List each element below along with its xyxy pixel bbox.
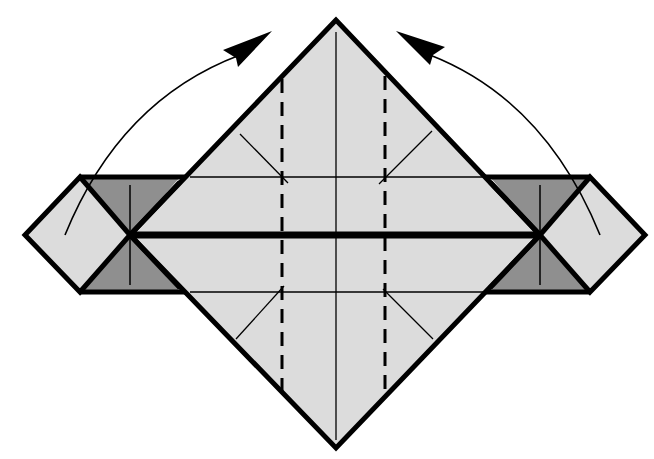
origami-diagram xyxy=(0,0,654,459)
left-arrowhead-icon xyxy=(223,31,272,67)
right-arrowhead-icon xyxy=(396,31,445,65)
diagram-canvas xyxy=(0,0,654,459)
